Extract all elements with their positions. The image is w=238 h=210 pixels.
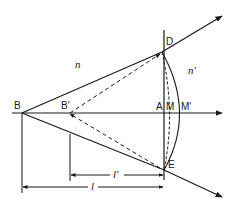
label-b-prime: B′ <box>61 100 70 111</box>
label-n-prime: n′ <box>188 64 197 76</box>
label-b: B <box>14 100 21 111</box>
label-d: D <box>166 36 173 47</box>
dashed-ray-lower <box>70 114 160 168</box>
label-m-prime: M′ <box>181 101 191 112</box>
lower-incident-ray <box>22 113 164 170</box>
label-l-prime: l′ <box>113 168 119 180</box>
label-l: l <box>91 180 94 192</box>
label-m: M <box>166 101 174 112</box>
label-a: A <box>156 101 163 112</box>
label-e: E <box>168 159 175 170</box>
upper-incident-ray <box>22 52 162 113</box>
label-n: n <box>75 58 81 70</box>
lower-refracted-ray <box>164 170 222 197</box>
refraction-diagram: B B′ A M M′ D E n n′ l′ l <box>0 0 238 210</box>
dashed-ray-upper <box>70 54 160 113</box>
